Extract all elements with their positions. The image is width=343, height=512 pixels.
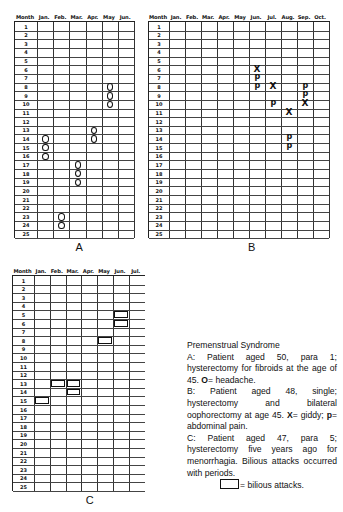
grid-row-line — [149, 221, 329, 222]
month-column-header: Feb. — [49, 268, 65, 274]
grid-column-line — [217, 22, 218, 238]
day-number-label: 21 — [15, 197, 37, 203]
grid-column-line — [134, 22, 135, 238]
month-column-header: Sep. — [296, 14, 312, 20]
grid-column-line — [81, 276, 82, 491]
day-number-label: 7 — [13, 329, 34, 335]
day-number-label: 16 — [149, 153, 169, 159]
day-number-label: 23 — [13, 467, 34, 473]
grid-row-line — [149, 169, 329, 170]
headache-marker-icon — [42, 135, 49, 143]
headache-marker-icon — [75, 161, 82, 169]
day-number-label: 4 — [13, 303, 34, 309]
month-column-header: May — [101, 14, 117, 20]
bilious-attack-marker-icon — [114, 311, 128, 318]
grid-column-line — [113, 276, 114, 491]
day-number-label: 9 — [15, 93, 37, 99]
month-column-header: May — [96, 268, 112, 274]
day-number-label: 8 — [15, 84, 37, 90]
abdominal-pain-marker-icon: p — [287, 142, 293, 150]
headache-marker-icon — [42, 144, 49, 152]
headache-marker-icon — [91, 127, 98, 135]
headache-marker-icon — [107, 83, 114, 91]
day-number-label: 25 — [15, 231, 37, 237]
day-number-label: 13 — [149, 127, 169, 133]
grid-column-line — [313, 22, 314, 238]
day-number-label: 1 — [15, 24, 37, 30]
month-column-header: Aug. — [280, 14, 296, 20]
month-column-header: Jul. — [264, 14, 280, 20]
day-number-label: 3 — [15, 41, 37, 47]
day-number-label: 24 — [13, 475, 34, 481]
grid-column-line — [53, 22, 54, 238]
day-number-label: 15 — [149, 145, 169, 151]
day-number-label: 9 — [149, 93, 169, 99]
grid-row-line — [149, 204, 329, 205]
abdominal-pain-marker-icon: p — [271, 99, 277, 107]
bilious-attack-marker-icon — [35, 397, 49, 404]
day-number-label: 11 — [149, 110, 169, 116]
day-number-label: 10 — [13, 355, 34, 361]
month-column-header: Jul. — [128, 268, 144, 274]
bilious-attack-marker-icon — [67, 389, 81, 396]
day-number-label: 5 — [149, 58, 169, 64]
grid-row-line — [149, 65, 329, 66]
day-grid: 1234567891011121314151617181920212223242… — [14, 21, 135, 238]
day-number-label: 12 — [15, 119, 37, 125]
month-column-header: Mar. — [68, 14, 84, 20]
abdominal-pain-marker-icon: p — [255, 82, 261, 90]
grid-row-line — [149, 160, 329, 161]
day-number-label: 3 — [149, 41, 169, 47]
panel-label-c: C — [86, 494, 94, 506]
day-number-label: 17 — [13, 415, 34, 421]
month-column-header: Mar. — [65, 268, 81, 274]
day-number-label: 20 — [15, 188, 37, 194]
day-number-label: 24 — [149, 222, 169, 228]
day-number-label: 7 — [149, 75, 169, 81]
grid-row-line — [149, 109, 329, 110]
day-number-label: 17 — [15, 162, 37, 168]
headache-marker-icon — [42, 153, 49, 161]
day-number-label: 6 — [149, 67, 169, 73]
grid-column-line — [265, 22, 266, 238]
grid-column-line — [233, 22, 234, 238]
day-number-label: 6 — [15, 67, 37, 73]
caption-b: B: Patient aged 48, single; hysterectomy… — [187, 386, 337, 432]
day-number-label: 14 — [15, 136, 37, 142]
grid-row-line — [149, 238, 329, 239]
grid-row-line — [149, 230, 329, 231]
day-number-label: 17 — [149, 162, 169, 168]
day-number-label: 15 — [15, 145, 37, 151]
day-number-label: 7 — [15, 75, 37, 81]
month-column-header: May — [232, 14, 248, 20]
headache-marker-icon — [91, 135, 98, 143]
bilious-attack-marker-icon — [114, 320, 128, 327]
grid-column-line — [249, 22, 250, 238]
month-column-header: Jun. — [112, 268, 128, 274]
abdominal-pain-marker-icon: p — [303, 90, 309, 98]
chart-b: MonthJan.Feb.Mar.Apr.MayJun.Jul.Aug.Sep.… — [148, 14, 330, 259]
panel-label-b: B — [248, 241, 255, 253]
grid-row-line — [149, 57, 329, 58]
grid-row-line — [149, 178, 329, 179]
grid-column-line — [329, 22, 330, 238]
day-number-label: 11 — [15, 110, 37, 116]
day-number-label: 18 — [13, 424, 34, 430]
row-header-label: Month — [12, 268, 33, 274]
grid-column-line — [201, 22, 202, 238]
grid-row-line — [149, 134, 329, 135]
day-number-label: 1 — [149, 24, 169, 30]
day-number-label: 18 — [149, 171, 169, 177]
day-number-label: 10 — [149, 101, 169, 107]
giddy-marker-icon: X — [270, 82, 277, 91]
caption-a: A: Patient aged 50, para 1; hysterectomy… — [187, 352, 337, 387]
grid-column-line — [281, 22, 282, 238]
month-column-header: Jun. — [117, 14, 133, 20]
panel-label-a: A — [76, 241, 83, 253]
grid-row-line — [149, 195, 329, 196]
grid-column-line — [34, 276, 35, 491]
day-number-label: 2 — [149, 32, 169, 38]
day-number-label: 22 — [15, 205, 37, 211]
grid-row-line — [149, 48, 329, 49]
month-column-header: Apr. — [85, 14, 101, 20]
